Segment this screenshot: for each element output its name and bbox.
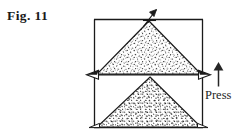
figure-page: Fig. 11 [0, 0, 247, 137]
press-label: Press [205, 88, 231, 103]
lower-chamber [90, 72, 210, 134]
upper-chamber [90, 15, 210, 81]
fine-powder-cone [90, 15, 210, 81]
press-direction-arrow [214, 62, 224, 87]
right-platen-arrow [199, 70, 211, 79]
left-platen-arrow [87, 70, 99, 79]
press-diagram [0, 0, 247, 137]
coarse-granular-cone [90, 72, 210, 134]
